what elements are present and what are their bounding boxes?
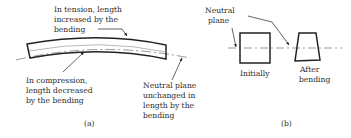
- svg-text:Neutral plane: Neutral plane: [143, 81, 197, 90]
- neutral-arrow-initial: [232, 28, 236, 47]
- svg-text:unchanged in: unchanged in: [143, 91, 195, 100]
- svg-text:plane: plane: [208, 16, 230, 25]
- caption-a: (a): [84, 119, 94, 128]
- after-bending-label: After bending: [299, 65, 330, 84]
- compression-arrow: [63, 52, 84, 72]
- svg-text:bending: bending: [299, 75, 330, 84]
- svg-text:increased by the: increased by the: [54, 15, 118, 24]
- svg-text:bending: bending: [143, 111, 174, 120]
- bent-cross-section: [295, 33, 320, 61]
- svg-text:length decreased: length decreased: [26, 86, 93, 95]
- neutral-plane-label-b: Neutral plane: [205, 6, 235, 25]
- neutral-plane-label-a: Neutral plane unchanged in length by the…: [143, 81, 197, 120]
- tension-label: In tension, length increased by the bend…: [54, 5, 122, 34]
- svg-text:After: After: [299, 65, 320, 74]
- svg-text:In compression,: In compression,: [26, 76, 87, 85]
- svg-text:In tension, length: In tension, length: [54, 5, 122, 14]
- svg-text:by the bending: by the bending: [26, 96, 84, 105]
- bending-diagram: In tension, length increased by the bend…: [0, 0, 351, 138]
- caption-b: (b): [281, 119, 292, 128]
- neutral-arrow-a: [172, 58, 182, 80]
- svg-text:bending: bending: [54, 25, 85, 34]
- svg-text:Neutral: Neutral: [205, 6, 235, 15]
- tension-arrow: [98, 29, 127, 36]
- compression-label: In compression, length decreased by the …: [26, 76, 93, 105]
- bent-beam: [16, 38, 190, 60]
- neutral-arrow-after: [248, 16, 289, 45]
- svg-text:length by the: length by the: [143, 101, 195, 110]
- initially-label: Initially: [240, 69, 270, 78]
